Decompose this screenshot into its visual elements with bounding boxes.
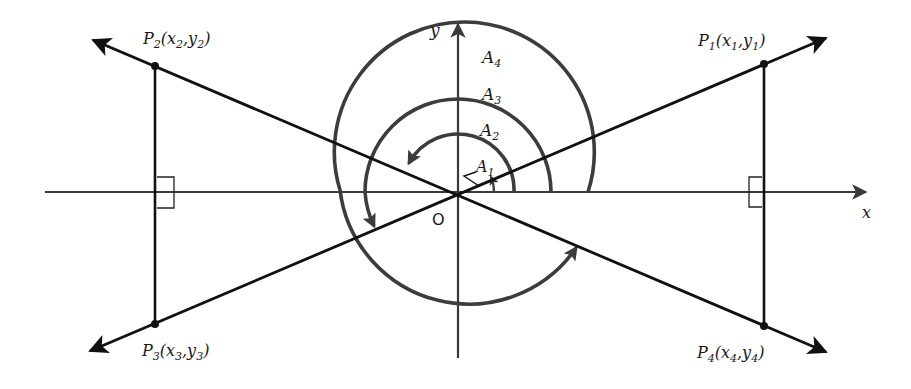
label-p2: P2(x2,y2) <box>142 29 210 51</box>
label-a3: A3 <box>480 84 501 107</box>
point-p2 <box>151 62 159 70</box>
label-p3: P3(x3,y3) <box>141 341 209 363</box>
label-p1: P1(x1,y1) <box>697 31 765 53</box>
arc-a4 <box>334 22 594 304</box>
angle-diagram: P1(x1,y1) P2(x2,y2) P3(x3,y3) P4(x4,y4) … <box>0 0 911 389</box>
point-p3 <box>151 320 159 328</box>
label-a1: A1 <box>474 157 495 179</box>
label-p4: P4(x4,y4) <box>696 343 764 365</box>
point-p1 <box>760 60 768 68</box>
label-a4: A4 <box>480 47 501 70</box>
label-y-axis: y <box>429 20 440 40</box>
label-origin: O <box>432 210 445 229</box>
label-x-axis: x <box>862 203 871 222</box>
point-p4 <box>760 322 768 330</box>
label-a2: A2 <box>478 120 499 143</box>
